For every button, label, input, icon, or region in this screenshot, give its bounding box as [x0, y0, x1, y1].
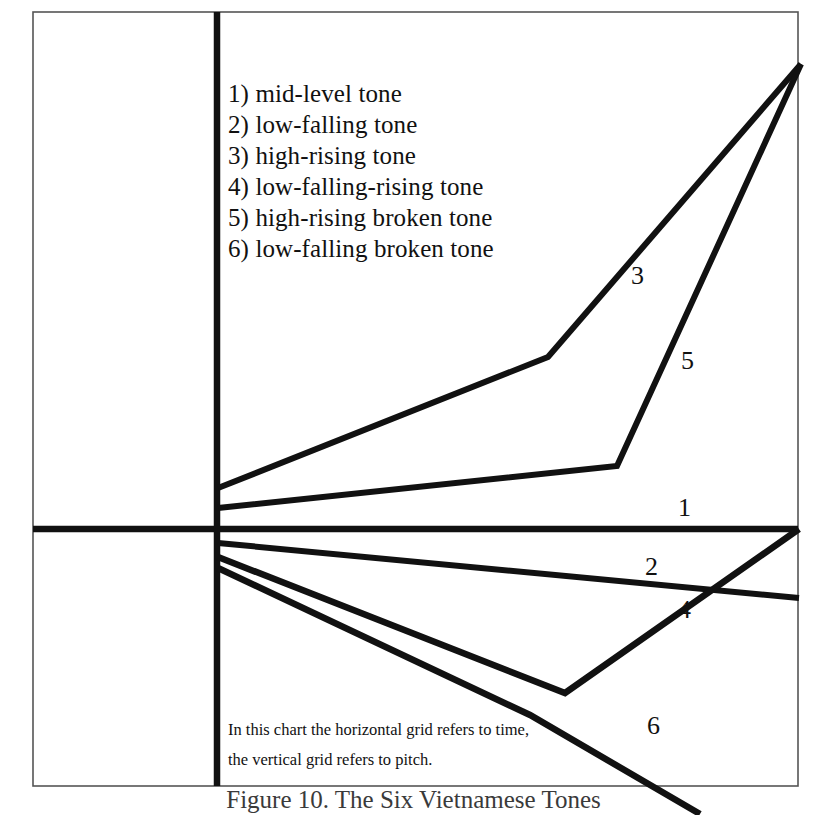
curve-label-4: 4: [678, 597, 691, 623]
chart-note: In this chart the horizontal grid refers…: [228, 715, 529, 775]
curve-label-3: 3: [631, 263, 644, 289]
figure-caption-clip: Figure 10. The Six Vietnamese Tones: [0, 790, 827, 815]
legend-item-1: 1) mid-level tone: [228, 78, 494, 109]
legend-item-4: 4) low-falling-rising tone: [228, 171, 494, 202]
legend-item-5: 5) high-rising broken tone: [228, 202, 494, 233]
curve-label-2: 2: [645, 554, 658, 580]
curve-label-1: 1: [678, 495, 691, 521]
curve-label-6: 6: [647, 713, 660, 739]
legend-item-2: 2) low-falling tone: [228, 109, 494, 140]
chart-note-line-1: In this chart the horizontal grid refers…: [228, 715, 529, 745]
legend-item-6: 6) low-falling broken tone: [228, 233, 494, 264]
curve-label-5: 5: [681, 348, 694, 374]
tone-legend: 1) mid-level tone 2) low-falling tone 3)…: [228, 78, 494, 264]
chart-note-line-2: the vertical grid refers to pitch.: [228, 745, 529, 775]
legend-item-3: 3) high-rising tone: [228, 140, 494, 171]
figure-caption: Figure 10. The Six Vietnamese Tones: [0, 790, 827, 814]
figure-root: 1) mid-level tone 2) low-falling tone 3)…: [0, 0, 827, 815]
